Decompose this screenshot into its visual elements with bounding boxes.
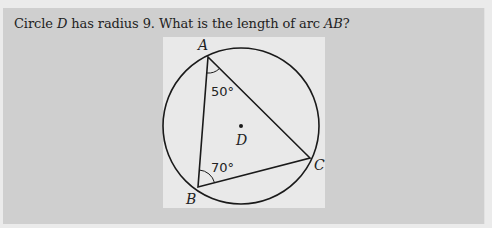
label-b: B xyxy=(185,191,196,207)
angle-label-b: 70° xyxy=(211,160,234,175)
label-d: D xyxy=(235,132,247,148)
geometry-figure: A B C D 50° 70° xyxy=(0,0,492,228)
angle-arc-a xyxy=(207,69,220,74)
angle-label-a: 50° xyxy=(211,84,234,99)
label-c: C xyxy=(314,157,325,173)
center-point xyxy=(239,124,243,128)
label-a: A xyxy=(196,37,208,53)
